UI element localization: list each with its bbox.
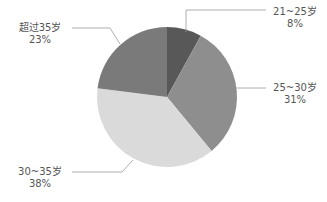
label-30-35-pct: 38% — [12, 178, 68, 190]
label-21-25-name: 21~25岁 — [270, 6, 320, 18]
pie-slice-3 — [98, 27, 167, 97]
label-30-35: 30~35岁 38% — [12, 166, 68, 190]
label-over-35: 超过35岁 23% — [12, 22, 68, 46]
label-25-30-pct: 31% — [270, 94, 320, 106]
label-21-25: 21~25岁 8% — [270, 6, 320, 30]
leader-line-30-35 — [72, 160, 133, 172]
leader-line-over-35 — [72, 28, 120, 44]
label-21-25-pct: 8% — [270, 18, 320, 30]
label-over-35-name: 超过35岁 — [12, 22, 68, 34]
label-25-30-name: 25~30岁 — [270, 82, 320, 94]
label-30-35-name: 30~35岁 — [12, 166, 68, 178]
label-25-30: 25~30岁 31% — [270, 82, 320, 106]
leader-line-21-25 — [186, 10, 266, 32]
label-over-35-pct: 23% — [12, 34, 68, 46]
